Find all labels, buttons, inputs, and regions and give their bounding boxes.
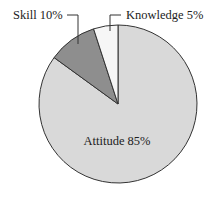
label-skill: Skill 10% [13,8,63,22]
pie-chart: Attitude 85%Skill 10%Knowledge 5% [0,0,211,199]
label-attitude: Attitude 85% [83,134,150,148]
label-knowledge: Knowledge 5% [126,8,203,22]
